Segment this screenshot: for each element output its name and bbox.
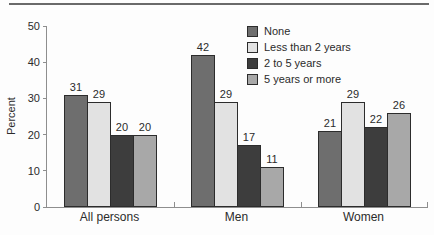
bar-fill [64,95,88,207]
bar-group-all-persons: 31 29 20 20 [47,26,174,207]
bar-fill [364,127,388,207]
y-tick-label: 30 [28,92,40,104]
y-tick-label: 40 [28,56,40,68]
plot-area: 0 10 20 30 40 50 31 [46,26,428,208]
bar-5-years-or-more-all-persons: 20 [133,26,157,207]
bar-fill [341,102,365,207]
y-axis-label: Percent [4,26,18,207]
bar-fill [237,145,261,207]
y-tick-label: 50 [28,20,40,32]
y-tick: 20 [28,129,47,141]
legend-swatch-icon [247,42,258,53]
bar-5-years-or-more-women: 26 [387,26,411,207]
bar-value-label: 21 [324,117,336,129]
legend-label: None [264,25,290,37]
legend-swatch-icon [247,58,258,69]
y-tick: 10 [28,165,47,177]
y-tick-label: 0 [34,201,40,213]
bar-none-all-persons: 31 [64,26,88,207]
y-tick: 50 [28,20,47,32]
bar-value-label: 29 [347,88,359,100]
legend-label: 2 to 5 years [264,57,321,69]
x-axis-tick [301,202,302,207]
bar-fill [110,135,134,207]
bar-fill [318,131,342,207]
legend-item-5-years-or-more: 5 years or more [247,71,351,87]
bar-value-label: 42 [197,41,209,53]
bar-fill [214,102,238,207]
category-label-women: Women [300,210,427,224]
bar-value-label: 31 [70,81,82,93]
legend-label: 5 years or more [264,73,341,85]
x-axis-tick [174,202,175,207]
bar-chart-figure: Percent 0 10 20 30 40 50 [0,0,434,235]
top-rule-divider [9,3,429,5]
bar-none-men: 42 [191,26,215,207]
bar-less-than-2-years-all-persons: 29 [87,26,111,207]
category-label-men: Men [173,210,300,224]
legend-swatch-icon [247,26,258,37]
bar-value-label: 29 [220,88,232,100]
y-tick: 40 [28,56,47,68]
y-tick-label: 20 [28,129,40,141]
bar-value-label: 17 [243,131,255,143]
bar-less-than-2-years-men: 29 [214,26,238,207]
bar-fill [133,135,157,207]
category-label-all-persons: All persons [46,210,173,224]
bar-fill [191,55,215,207]
bar-value-label: 29 [93,88,105,100]
legend-label: Less than 2 years [264,41,351,53]
bar-value-label: 22 [370,113,382,125]
bar-2-to-5-years-all-persons: 20 [110,26,134,207]
y-tick: 30 [28,92,47,104]
legend-item-2-to-5-years: 2 to 5 years [247,55,351,71]
legend-swatch-icon [247,74,258,85]
bar-value-label: 20 [116,121,128,133]
bar-fill [387,113,411,207]
bar-value-label: 11 [266,153,277,165]
x-axis-labels: All persons Men Women [46,210,427,224]
bar-fill [260,167,284,207]
x-axis-tick [427,202,428,207]
legend-item-less-than-2-years: Less than 2 years [247,39,351,55]
bar-value-label: 20 [139,121,151,133]
legend-item-none: None [247,23,351,39]
bar-value-label: 26 [393,99,405,111]
bar-fill [87,102,111,207]
legend: None Less than 2 years 2 to 5 years 5 ye… [247,23,351,87]
bar-groups: 31 29 20 20 42 [47,26,428,207]
bar-2-to-5-years-women: 22 [364,26,388,207]
y-tick-label: 10 [28,165,40,177]
